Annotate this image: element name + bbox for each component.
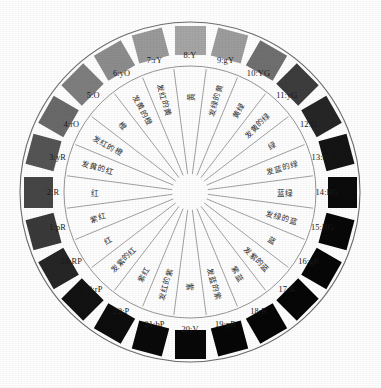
hue-code-label: 23:rP bbox=[84, 284, 103, 293]
hue-code-label: 15:BG bbox=[311, 223, 334, 232]
hue-code-label: 8:Y bbox=[184, 51, 197, 60]
hue-code-label: 21:bP bbox=[145, 320, 165, 329]
hue-swatch bbox=[175, 330, 206, 359]
hue-code-label: 5:O bbox=[87, 91, 100, 100]
hue-code-label: 1:pR bbox=[49, 223, 66, 232]
hue-code-label: 22:P bbox=[114, 306, 130, 315]
hue-code-label: 9:gY bbox=[217, 55, 234, 64]
outer-ring-circle bbox=[20, 22, 360, 362]
hue-code-label: 12:G bbox=[300, 119, 317, 128]
hue-code-label: 16:gB bbox=[298, 256, 319, 265]
hue-name-label: 红 bbox=[91, 187, 99, 198]
hue-code-label: 11:yG bbox=[276, 91, 297, 100]
hue-name-label: 黄 bbox=[185, 93, 196, 101]
hue-code-label: 24:RP bbox=[61, 256, 82, 265]
hue-name-label: 蓝绿 bbox=[277, 187, 294, 198]
hue-code-label: 20:V bbox=[181, 325, 198, 334]
hue-name-label: 紫 bbox=[185, 283, 196, 291]
hue-code-label: 19:pB bbox=[215, 320, 236, 329]
hue-code-label: 13:bG bbox=[312, 152, 333, 161]
hue-code-label: 6:yO bbox=[113, 69, 130, 78]
hue-code-label: 17:B bbox=[279, 284, 296, 293]
hue-code-label: 7:rY bbox=[147, 55, 163, 64]
hue-code-label: 3:yR bbox=[49, 152, 66, 161]
color-wheel-figure: 1:pR2:R3:yR4:rO5:O6:yO7:rY8:Y9:gY10:YG11… bbox=[0, 0, 381, 388]
hue-code-label: 18:B bbox=[250, 306, 267, 315]
hue-code-label: 2:R bbox=[47, 188, 59, 197]
hue-code-label: 10:YG bbox=[247, 69, 270, 78]
hue-code-label: 4:rO bbox=[63, 119, 79, 128]
hue-code-label: 14:BG bbox=[316, 188, 339, 197]
